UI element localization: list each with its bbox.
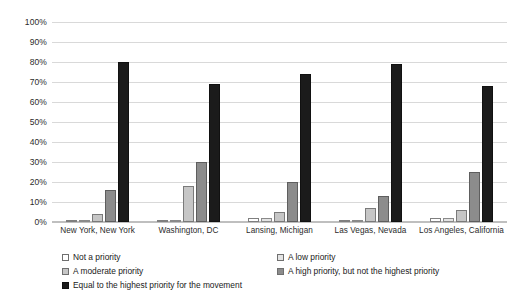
y-axis-tick-label: 10% [3,198,47,207]
y-axis-tick-label: 80% [3,58,47,67]
x-axis-category-label: New York, New York [52,226,143,235]
y-axis-tick-label: 20% [3,178,47,187]
legend-label: Not a priority [73,252,120,262]
bar [339,220,350,222]
legend-item[interactable]: A low priority [277,250,502,264]
y-axis-tick-label: 40% [3,138,47,147]
legend-label: A moderate priority [73,266,143,276]
bar-group [143,22,234,222]
bar [443,218,454,222]
bar [157,220,168,222]
bar [430,218,441,222]
y-axis-tick-label: 70% [3,78,47,87]
legend-item[interactable]: A moderate priority [62,264,277,278]
bar [170,220,181,222]
bar [287,182,298,222]
y-axis-tick-label: 50% [3,118,47,127]
bar-group [325,22,416,222]
bar [66,220,77,222]
legend-swatch-icon [62,254,69,261]
bar [248,218,259,222]
legend-swatch-icon [277,268,284,275]
x-axis-category-label: Lansing, Michigan [234,226,325,235]
gridline [52,222,507,223]
legend-label: A high priority, but not the highest pri… [288,266,439,276]
legend-label: A low priority [288,252,335,262]
bar [118,62,129,222]
y-axis-tick-label: 0% [3,218,47,227]
legend-swatch-icon [62,282,69,289]
bar-group [52,22,143,222]
bar [261,218,272,222]
y-axis-tick-label: 30% [3,158,47,167]
bar-group [234,22,325,222]
bar [196,162,207,222]
x-axis-category-label: Los Angeles, California [416,226,507,235]
bar [378,196,389,222]
legend-label: Equal to the highest priority for the mo… [73,280,242,290]
bar [209,84,220,222]
bar [105,190,116,222]
y-axis-tick-label: 100% [3,18,47,27]
bar [79,220,90,222]
y-axis-tick-label: 90% [3,38,47,47]
bar [183,186,194,222]
bar-groups [52,22,507,222]
legend-item[interactable]: Equal to the highest priority for the mo… [62,278,502,292]
legend-item[interactable]: A high priority, but not the highest pri… [277,264,502,278]
bar [391,64,402,222]
bar-chart: 0%10%20%30%40%50%60%70%80%90%100% New Yo… [0,0,515,305]
legend-swatch-icon [62,268,69,275]
chart-legend: Not a priorityA low priorityA moderate p… [62,250,502,292]
legend-item[interactable]: Not a priority [62,250,277,264]
x-axis-category-label: Washington, DC [143,226,234,235]
bar [469,172,480,222]
bar [456,210,467,222]
legend-swatch-icon [277,254,284,261]
bar [365,208,376,222]
x-axis-category-label: Las Vegas, Nevada [325,226,416,235]
bar [482,86,493,222]
bar [274,212,285,222]
bar [300,74,311,222]
y-axis-tick-label: 60% [3,98,47,107]
x-axis-category-labels: New York, New YorkWashington, DCLansing,… [52,226,507,235]
bar-group [416,22,507,222]
bar [352,220,363,222]
bar [92,214,103,222]
